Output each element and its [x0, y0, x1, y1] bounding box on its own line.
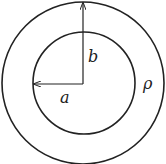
concentric-circles-figure: b a ρ	[0, 0, 166, 164]
label-rho: ρ	[142, 74, 153, 93]
diagram: b a ρ	[0, 0, 166, 164]
label-b: b	[88, 47, 98, 66]
inner-circle	[33, 32, 135, 134]
label-a: a	[60, 88, 70, 107]
